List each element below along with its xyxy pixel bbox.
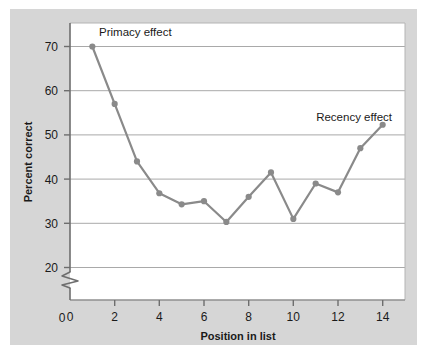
data-point-marker <box>156 190 162 196</box>
data-point-marker <box>134 158 140 164</box>
x-tick-label-2: 2 <box>111 310 118 324</box>
data-point-marker <box>201 198 207 204</box>
figure-root: 70 60 50 40 30 20 0 Percent correct 0 2 … <box>0 0 427 363</box>
data-point-marker <box>89 43 95 49</box>
x-tick-label-12: 12 <box>331 310 345 324</box>
x-tick-label-0: 0 <box>67 310 74 324</box>
data-point-marker <box>313 180 319 186</box>
y-tick-label-30: 30 <box>45 217 59 231</box>
data-point-marker <box>268 169 274 175</box>
annotation-primacy-effect: Primacy effect <box>99 26 172 38</box>
data-point-marker <box>246 194 252 200</box>
data-point-marker <box>179 201 185 207</box>
y-axis-ticks <box>64 47 70 268</box>
x-tick-label-14: 14 <box>376 310 390 324</box>
x-axis-title: Position in list <box>200 330 276 342</box>
x-tick-label-8: 8 <box>245 310 252 324</box>
y-tick-label-50: 50 <box>45 128 59 142</box>
x-axis-tick-labels: 0 2 4 6 8 10 12 14 <box>67 310 390 324</box>
y-origin-label: 0 <box>59 311 66 325</box>
data-point-marker <box>290 216 296 222</box>
y-axis-tick-labels: 70 60 50 40 30 20 0 <box>45 40 66 325</box>
y-tick-label-40: 40 <box>45 173 59 187</box>
data-point-marker <box>335 189 341 195</box>
y-tick-label-60: 60 <box>45 84 59 98</box>
annotation-recency-effect: Recency effect <box>316 111 393 123</box>
x-axis-ticks <box>115 300 383 306</box>
x-tick-label-4: 4 <box>156 310 163 324</box>
x-tick-label-6: 6 <box>201 310 208 324</box>
data-point-marker <box>223 219 229 225</box>
x-tick-label-10: 10 <box>287 310 301 324</box>
y-tick-label-70: 70 <box>45 40 59 54</box>
y-axis-title: Percent correct <box>22 121 34 202</box>
data-point-marker <box>357 145 363 151</box>
serial-position-curve-chart: 70 60 50 40 30 20 0 Percent correct 0 2 … <box>0 0 427 363</box>
data-point-marker <box>112 101 118 107</box>
y-tick-label-20: 20 <box>45 261 59 275</box>
